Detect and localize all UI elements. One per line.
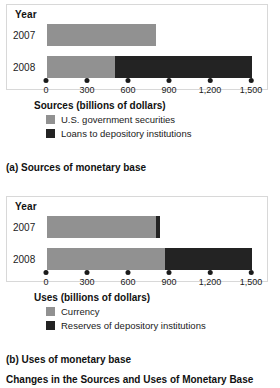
caption-panel-a: (a) Sources of monetary base bbox=[6, 162, 146, 173]
legend-item: Reserves of depository institutions bbox=[46, 320, 206, 331]
tick-dot-icon bbox=[167, 78, 172, 83]
axis-tick-1500: 1,500 bbox=[240, 270, 263, 287]
tick-label: 1,200 bbox=[199, 85, 222, 95]
legend-item: U.S. government securities bbox=[46, 114, 191, 125]
row-label-2008-b: 2008 bbox=[13, 254, 47, 265]
axis-tick-0: 0 bbox=[43, 78, 48, 95]
tick-label: 1,500 bbox=[240, 85, 263, 95]
legend-sources: U.S. government securitiesLoans to depos… bbox=[46, 114, 191, 142]
bar-segment-2008-1 bbox=[115, 56, 252, 78]
year-header-b: Year bbox=[15, 201, 37, 212]
legend-swatch-icon bbox=[46, 115, 55, 124]
bar-segment-2008-1 bbox=[165, 248, 252, 270]
bar-segment-2008-0 bbox=[47, 248, 165, 270]
tick-dot-icon bbox=[126, 270, 131, 275]
bar-segment-2007-1 bbox=[156, 216, 160, 238]
legend-label: Loans to depository institutions bbox=[61, 128, 191, 139]
x-axis-sources: 03006009001,2001,500 bbox=[46, 78, 251, 100]
figure-monetary-base: Year 2007 2008 03006009001,2001,500 Sour… bbox=[0, 0, 280, 388]
tick-label: 300 bbox=[79, 85, 94, 95]
x-axis-title-uses: Uses (billions of dollars) bbox=[34, 292, 150, 303]
row-label-2008-a: 2008 bbox=[13, 62, 47, 73]
tick-dot-icon bbox=[208, 270, 213, 275]
axis-tick-1200: 1,200 bbox=[199, 78, 222, 95]
legend-swatch-icon bbox=[46, 307, 55, 316]
caption-panel-b: (b) Uses of monetary base bbox=[6, 354, 131, 365]
figure-title: Changes in the Sources and Uses of Monet… bbox=[6, 374, 253, 385]
tick-dot-icon bbox=[85, 78, 90, 83]
bar-segment-2007-0 bbox=[47, 216, 156, 238]
legend-uses: CurrencyReserves of depository instituti… bbox=[46, 306, 206, 334]
tick-label: 0 bbox=[43, 277, 48, 287]
legend-swatch-icon bbox=[46, 129, 55, 138]
tick-label: 600 bbox=[120, 85, 135, 95]
bar-segment-2007-0 bbox=[47, 24, 156, 46]
axis-tick-0: 0 bbox=[43, 270, 48, 287]
legend-item: Currency bbox=[46, 306, 206, 317]
bar-2008 bbox=[47, 248, 252, 270]
axis-tick-300: 300 bbox=[79, 270, 94, 287]
tick-label: 900 bbox=[161, 277, 176, 287]
tick-dot-icon bbox=[126, 78, 131, 83]
legend-label: U.S. government securities bbox=[61, 114, 175, 125]
bar-2007 bbox=[47, 24, 156, 46]
tick-label: 1,200 bbox=[199, 277, 222, 287]
bar-2007 bbox=[47, 216, 160, 238]
legend-swatch-icon bbox=[46, 321, 55, 330]
tick-label: 300 bbox=[79, 277, 94, 287]
bar-segment-2008-0 bbox=[47, 56, 115, 78]
axis-tick-600: 600 bbox=[120, 270, 135, 287]
row-label-2007-b: 2007 bbox=[13, 222, 47, 233]
tick-dot-icon bbox=[208, 78, 213, 83]
axis-tick-900: 900 bbox=[161, 270, 176, 287]
legend-label: Currency bbox=[61, 306, 100, 317]
tick-dot-icon bbox=[85, 270, 90, 275]
axis-tick-300: 300 bbox=[79, 78, 94, 95]
bar-2008 bbox=[47, 56, 252, 78]
tick-label: 900 bbox=[161, 85, 176, 95]
legend-label: Reserves of depository institutions bbox=[61, 320, 206, 331]
x-axis-title-sources: Sources (billions of dollars) bbox=[34, 100, 166, 111]
legend-item: Loans to depository institutions bbox=[46, 128, 191, 139]
tick-dot-icon bbox=[249, 78, 254, 83]
tick-dot-icon bbox=[43, 270, 48, 275]
tick-dot-icon bbox=[43, 78, 48, 83]
row-label-2007-a: 2007 bbox=[13, 30, 47, 41]
tick-label: 0 bbox=[43, 85, 48, 95]
axis-tick-1200: 1,200 bbox=[199, 270, 222, 287]
axis-tick-900: 900 bbox=[161, 78, 176, 95]
tick-label: 1,500 bbox=[240, 277, 263, 287]
tick-label: 600 bbox=[120, 277, 135, 287]
year-header-a: Year bbox=[15, 9, 37, 20]
x-axis-uses: 03006009001,2001,500 bbox=[46, 270, 251, 292]
tick-dot-icon bbox=[249, 270, 254, 275]
tick-dot-icon bbox=[167, 270, 172, 275]
axis-tick-1500: 1,500 bbox=[240, 78, 263, 95]
axis-tick-600: 600 bbox=[120, 78, 135, 95]
